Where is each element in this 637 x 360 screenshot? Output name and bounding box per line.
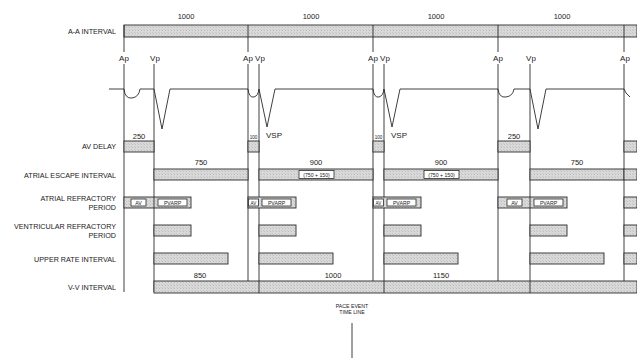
- av-delay-value-1: 250: [133, 132, 146, 141]
- row-label-av-delay: AV DELAY: [82, 142, 116, 151]
- av-delay-bar-4: [498, 141, 530, 152]
- row-label-upper-rate-interval: UPPER RATE INTERVAL: [34, 255, 116, 264]
- event-label-ap-5: Ap: [620, 54, 630, 63]
- row-label-atrial-escape-interval: ATRIAL ESCAPE INTERVAL: [24, 171, 116, 180]
- ecg-waveform: [109, 89, 630, 129]
- uri-bar-1: [154, 253, 228, 264]
- pacing-timing-diagram: A-A INTERVAL AV DELAY ATRIAL ESCAPE INTE…: [0, 0, 637, 360]
- event-label-ap-4: Ap: [493, 54, 503, 63]
- arp-cycle-1: AV PVARP: [124, 197, 191, 208]
- aa-value-2: 1000: [303, 12, 320, 21]
- row-label-atrial-refractory-1: ATRIAL REFRACTORY: [40, 194, 116, 203]
- aei-bar-5: [624, 169, 637, 180]
- arp-pvarp-label-1: PVARP: [164, 200, 182, 206]
- arp-cycle-4: AV PVARP: [498, 197, 567, 208]
- event-label-ap-3: Ap: [368, 54, 378, 63]
- row-label-vv-interval: V-V INTERVAL: [68, 283, 116, 292]
- arp-av-label-3: AV: [376, 201, 383, 206]
- av-delay-value-2: 100: [250, 135, 258, 140]
- event-label-ap-1: Ap: [119, 54, 129, 63]
- arp-pvarp-label-3: PVARP: [393, 200, 411, 206]
- row-label-atrial-refractory-2: PERIOD: [88, 203, 116, 212]
- vv-value-2: 1000: [325, 271, 342, 280]
- uri-bar-5: [624, 253, 637, 264]
- row-label-ventricular-refractory-1: VENTRICULAR REFRACTORY: [14, 222, 116, 231]
- uri-bar-3: [384, 253, 458, 264]
- vsp-label-1: VSP: [266, 131, 282, 140]
- arp-cycle-3: AV PVARP: [373, 197, 421, 208]
- av-delay-value-4: 250: [508, 132, 521, 141]
- timeline-label-2: TIME LINE: [339, 309, 365, 315]
- av-delay-bar-2: [248, 141, 259, 152]
- arp-bar-5: [624, 197, 637, 208]
- arp-av-label-4: AV: [511, 200, 518, 206]
- aei-bar-1: [154, 169, 248, 180]
- arp-av-label-1: AV: [135, 200, 142, 206]
- arp-pvarp-label-4: PVARP: [540, 200, 558, 206]
- event-label-vp-4: Vp: [526, 54, 536, 63]
- vv-interval-bar: [154, 281, 637, 293]
- arp-av-label-2: AV: [251, 201, 258, 206]
- aei-value-3: 900: [435, 158, 448, 167]
- aei-value-2: 900: [310, 158, 323, 167]
- aei-value-4: 750: [571, 158, 584, 167]
- event-label-vp-1: Vp: [150, 54, 160, 63]
- aei-bar-4: [530, 169, 624, 180]
- row-label-ventricular-refractory-2: PERIOD: [88, 231, 116, 240]
- aa-value-3: 1000: [428, 12, 445, 21]
- aa-interval-bar: [124, 25, 637, 37]
- aei-note-2: (750 + 150): [303, 172, 330, 178]
- vrp-bar-1: [154, 225, 191, 236]
- aa-value-1: 1000: [178, 12, 195, 21]
- arp-pvarp-label-2: PVARP: [268, 200, 286, 206]
- event-label-ap-2: Ap: [243, 54, 253, 63]
- vrp-bar-5: [624, 225, 637, 236]
- row-label-aa-interval: A-A INTERVAL: [68, 27, 116, 36]
- arp-cycle-2: AV PVARP: [248, 197, 296, 208]
- vsp-label-2: VSP: [391, 131, 407, 140]
- aei-value-1: 750: [195, 158, 208, 167]
- vv-value-3: 1150: [433, 271, 449, 280]
- av-delay-value-3: 100: [375, 135, 383, 140]
- av-delay-bar-1: [124, 141, 154, 152]
- vrp-bar-4: [530, 225, 567, 236]
- uri-bar-4: [530, 253, 604, 264]
- aei-note-3: (750 + 150): [428, 172, 455, 178]
- event-label-vp-3: Vp: [380, 54, 390, 63]
- aa-value-4: 1000: [554, 12, 571, 21]
- av-delay-bar-5: [624, 141, 637, 152]
- uri-bar-2: [259, 253, 333, 264]
- av-delay-bar-3: [373, 141, 384, 152]
- event-label-vp-2: Vp: [255, 54, 265, 63]
- vrp-bar-2: [259, 225, 296, 236]
- vrp-bar-3: [384, 225, 421, 236]
- vv-value-1: 850: [194, 271, 207, 280]
